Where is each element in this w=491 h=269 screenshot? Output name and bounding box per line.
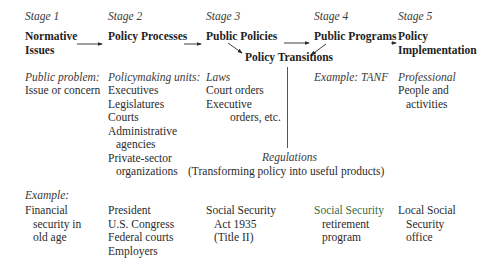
list-item: Social Security (314, 204, 384, 218)
stage-2-label: Stage 2 (108, 10, 142, 24)
list-item: retirement (314, 218, 384, 232)
stage-4-title: Public Programs (314, 30, 397, 44)
list-item: Courts (108, 111, 178, 125)
list-item: Security (398, 218, 456, 232)
list-item: Federal courts (108, 231, 174, 245)
stage-1-title-line: Issues (25, 44, 77, 58)
list-item: Private-sector (108, 152, 178, 166)
list-item: activities (398, 98, 449, 112)
list-item: Executive (206, 98, 281, 112)
example-stage-3: Social Security Act 1935 (Title II) (206, 204, 276, 245)
stage-5-title-line: Implementation (398, 44, 477, 58)
stage-1-detail-list: Issue or concern (25, 84, 100, 98)
list-item: old age (25, 231, 81, 245)
list-item: Issue or concern (25, 84, 100, 98)
list-item: Act 1935 (206, 218, 276, 232)
list-item: organizations (108, 165, 178, 179)
list-item: Administrative (108, 125, 178, 139)
stage-3-title: Public Policies (206, 30, 277, 44)
stage-5-detail-list: People and activities (398, 84, 449, 111)
stage-2-detail-list: Executives Legislatures Courts Administr… (108, 84, 178, 179)
list-item: Legislatures (108, 98, 178, 112)
list-item: President (108, 204, 174, 218)
policy-transitions-title: Policy Transitions (245, 51, 333, 65)
stage-4-detail-heading: Example: TANF (314, 71, 388, 85)
list-item: security in (25, 218, 81, 232)
stage-5-title: Policy Implementation (398, 30, 477, 57)
list-item: Court orders (206, 84, 281, 98)
list-item: (Title II) (206, 231, 276, 245)
example-stage-1: Financial security in old age (25, 204, 81, 245)
example-stage-2: President U.S. Congress Federal courts E… (108, 204, 174, 258)
list-item: Social Security (206, 204, 276, 218)
stage-3-label: Stage 3 (206, 10, 240, 24)
list-item: orders, etc. (206, 111, 281, 125)
stage-1-title-line: Normative (25, 30, 77, 44)
list-item: Local Social (398, 204, 456, 218)
stage-1-detail-heading: Public problem: (25, 71, 100, 85)
list-item: program (314, 231, 384, 245)
arrow-policies-to-transitions (228, 43, 242, 53)
stage-1-title: Normative Issues (25, 30, 77, 57)
stage-1-label: Stage 1 (25, 10, 59, 24)
stage-2-detail-heading: Policymaking units: (108, 71, 200, 85)
list-item: Employers (108, 245, 174, 259)
list-item: agencies (108, 138, 178, 152)
regulations-title: Regulations (262, 151, 317, 165)
stage-3-detail-heading: Laws (206, 71, 230, 85)
stage-4-label: Stage 4 (314, 10, 348, 24)
list-item: People and (398, 84, 449, 98)
stage-3-detail-list: Court orders Executive orders, etc. (206, 84, 281, 125)
stage-5-label: Stage 5 (398, 10, 432, 24)
stage-5-title-line: Policy (398, 30, 477, 44)
list-item: Executives (108, 84, 178, 98)
example-stage-5: Local Social Security office (398, 204, 456, 245)
example-heading: Example: (25, 189, 69, 203)
stage-5-detail-heading: Professional (398, 71, 456, 85)
example-stage-4: Social Security retirement program (314, 204, 384, 245)
list-item: office (398, 231, 456, 245)
stage-2-title: Policy Processes (108, 30, 187, 44)
list-item: Financial (25, 204, 81, 218)
list-item: U.S. Congress (108, 218, 174, 232)
regulations-subtitle: (Transforming policy into useful product… (188, 165, 384, 179)
